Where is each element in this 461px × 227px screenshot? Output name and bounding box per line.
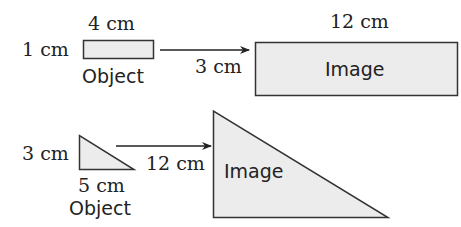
scale-factor-label: 3 cm [195, 55, 242, 77]
object-caption: Object [82, 65, 144, 87]
diagram-triangle: 3 cm 5 cm Object 12 cm Image [22, 111, 388, 219]
object-caption: Object [69, 197, 131, 219]
scale-factor-label: 12 cm [146, 152, 205, 174]
object-base-label: 5 cm [78, 174, 125, 196]
image-caption: Image [325, 58, 385, 80]
image-width-label: 12 cm [330, 10, 389, 32]
scaling-diagram: 4 cm 1 cm Object 3 cm 12 cm Image 3 cm 5… [0, 0, 461, 227]
object-rectangle [84, 41, 154, 59]
object-width-label: 4 cm [88, 12, 135, 34]
diagram-rectangle: 4 cm 1 cm Object 3 cm 12 cm Image [22, 10, 458, 96]
object-height-label: 3 cm [22, 142, 69, 164]
object-height-label: 1 cm [22, 38, 69, 60]
image-caption: Image [224, 160, 284, 182]
object-triangle [80, 136, 135, 170]
